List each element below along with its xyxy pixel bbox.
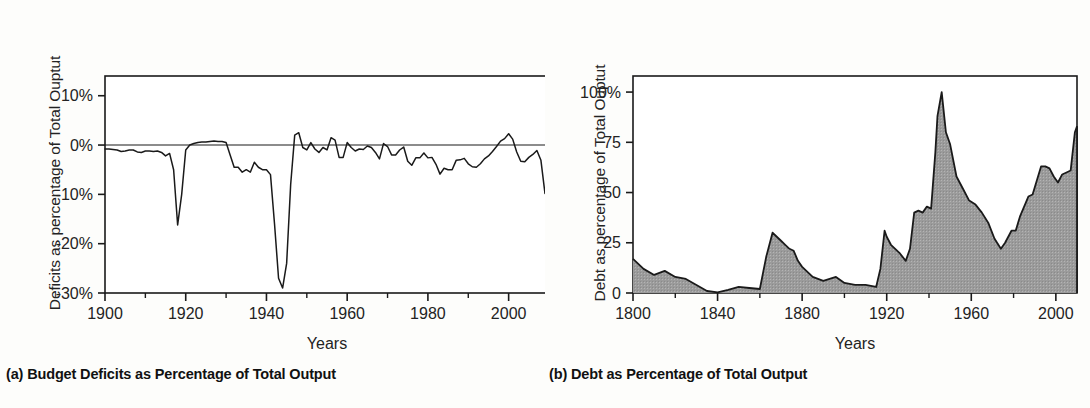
panel-b-plot: 100%7550250180018401880192019602000Years xyxy=(545,0,1090,360)
svg-text:-30%: -30% xyxy=(56,285,93,302)
svg-text:1800: 1800 xyxy=(615,305,651,322)
svg-text:25: 25 xyxy=(603,234,621,251)
svg-text:1920: 1920 xyxy=(869,305,905,322)
svg-text:0%: 0% xyxy=(70,137,93,154)
svg-text:1900: 1900 xyxy=(87,305,123,322)
svg-text:1840: 1840 xyxy=(700,305,736,322)
svg-text:Years: Years xyxy=(307,335,347,352)
svg-text:50: 50 xyxy=(603,184,621,201)
svg-text:100%: 100% xyxy=(580,84,621,101)
svg-text:-20%: -20% xyxy=(56,235,93,252)
panel-a-caption: (a) Budget Deficits as Percentage of Tot… xyxy=(6,366,336,382)
svg-text:0: 0 xyxy=(612,285,621,302)
figure-container: Deficits as percentage of Total Ouptut 1… xyxy=(0,0,1090,408)
svg-text:1920: 1920 xyxy=(168,305,204,322)
svg-text:10%: 10% xyxy=(61,87,93,104)
svg-text:1980: 1980 xyxy=(410,305,446,322)
panel-a-plot: 10%0%-10%-20%-30%19001920194019601980200… xyxy=(0,0,545,360)
svg-text:2000: 2000 xyxy=(1038,305,1074,322)
svg-text:Years: Years xyxy=(835,335,875,352)
svg-text:1880: 1880 xyxy=(784,305,820,322)
panel-b-caption: (b) Debt as Percentage of Total Output xyxy=(549,366,807,382)
svg-text:2000: 2000 xyxy=(491,305,527,322)
svg-text:75: 75 xyxy=(603,134,621,151)
svg-text:-10%: -10% xyxy=(56,186,93,203)
panel-debt: Debt as percentage of Total Ouptut 100%7… xyxy=(545,0,1090,408)
svg-text:1960: 1960 xyxy=(329,305,365,322)
svg-text:1940: 1940 xyxy=(249,305,285,322)
svg-text:1960: 1960 xyxy=(953,305,989,322)
panel-budget-deficits: Deficits as percentage of Total Ouptut 1… xyxy=(0,0,545,408)
